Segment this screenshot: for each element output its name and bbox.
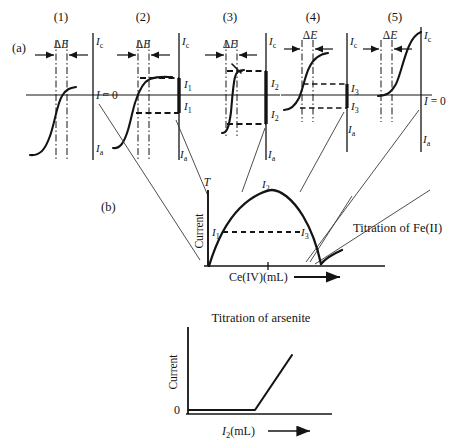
panel-3-current-label-lower: I2 [270, 108, 279, 123]
figure-svg: (a) (1) Ic Ia ΔE (2) Ic Ia I = 0 ΔE [0, 0, 456, 442]
panel-4-current-label-upper: I3 [350, 82, 359, 97]
panel-1-ic-label: Ic [95, 35, 104, 50]
panel-2-deltae-label: ΔE [136, 38, 150, 50]
panel-1-number: (1) [54, 10, 69, 24]
panel-3-ia-label: Ia [267, 148, 276, 163]
fe-annotation-i2: I2 [261, 178, 270, 193]
arsenite-y-zero-label: 0 [174, 403, 180, 417]
panel-3-ic-label: Ic [268, 35, 277, 50]
arsenite-chart-title: Titration of arsenite [212, 311, 311, 325]
panel-a-label: (a) [12, 41, 26, 55]
panel-4-current-label-lower: I3 [350, 100, 359, 115]
panel-5-ic-label: Ic [423, 29, 432, 44]
connector-5 [306, 110, 419, 262]
panel-1: (1) Ic Ia ΔE [26, 10, 104, 160]
panel-2: (2) Ic Ia I = 0 ΔE I1 I1 [95, 10, 192, 163]
figure-root: (a) (1) Ic Ia ΔE (2) Ic Ia I = 0 ΔE [0, 0, 456, 442]
panel-5-izero-label: I = 0 [423, 95, 446, 107]
panel-3-deltae-label: ΔE [223, 38, 237, 50]
connector-6 [310, 196, 352, 262]
panel-4-deltae-label: ΔE [303, 29, 317, 41]
panel-2-ia-label: Ia [179, 148, 188, 163]
panel-3: (3) Ic Ia ΔE I2 I2 [190, 10, 280, 163]
panel-5-curve [378, 32, 421, 96]
connector-4 [300, 112, 344, 192]
fe-annotation-i3: I3 [300, 226, 309, 241]
fe-titration-curve-tail [321, 250, 342, 264]
fe-chart-title: Titration of Fe(II) [353, 221, 442, 235]
panel-2-ic-label: Ic [181, 35, 190, 50]
panel-2-izero-label: I = 0 [95, 89, 118, 101]
panel-5-number: (5) [388, 10, 403, 24]
panel-2-current-label-lower: I1 [183, 100, 192, 115]
fe-y-axis-title: Current [193, 213, 205, 249]
arsenite-x-axis-title: I2(mL) [221, 424, 255, 440]
arsenite-y-axis-title: Current [167, 354, 179, 390]
panel-2-curve [113, 77, 172, 148]
panel-5-deltae-label: ΔE [383, 29, 397, 41]
fe-x-axis-title: Ce(IV)(mL) [229, 270, 288, 284]
panel-2-current-label-upper: I1 [183, 78, 192, 93]
panel-4-curve [284, 53, 328, 110]
panel-1-deltae-label: ΔE [54, 38, 68, 50]
panel-b-label: (b) [101, 200, 116, 214]
panel-1-ia-label: Ia [95, 142, 104, 157]
panel-4-number: (4) [306, 10, 321, 24]
arsenite-titration-chart: Titration of arsenite Current 0 I2(mL) [167, 311, 332, 440]
fe-annotation-i1: I1 [211, 226, 220, 241]
fe-titration-chart: (b) T Current Ce(IV)(mL) I1 I2 I3 Titrat… [101, 176, 442, 284]
panel-5: (5) Ic Ia I = 0 ΔE [358, 10, 446, 152]
panel-4-ic-label: Ic [349, 35, 358, 50]
panel-1-curve [30, 87, 76, 155]
arsenite-titration-curve [189, 355, 292, 410]
panel-4-ia-label: Ia [347, 123, 356, 138]
fe-y-axis-top-label: T [204, 176, 212, 188]
panel-2-number: (2) [136, 10, 151, 24]
panel-3-current-label-upper: I2 [270, 77, 279, 92]
panel-5-ia-label: Ia [422, 133, 431, 148]
panel-3-number: (3) [223, 10, 238, 24]
panel-4: (4) Ic Ia ΔE I3 I3 [281, 10, 359, 152]
